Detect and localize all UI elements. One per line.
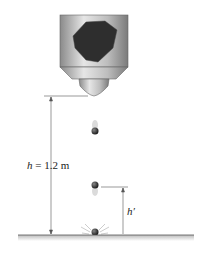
height-label: h = 1.2 m [27,159,69,171]
bouncing-ball [81,224,109,236]
diagram-canvas [0,0,209,253]
hopper [60,15,128,96]
falling-ball [92,182,99,197]
height-value: = 1.2 m [33,159,70,171]
rebound-label: h′ [127,205,135,217]
rebound-dimension [101,187,128,234]
dropping-ball [92,120,99,135]
ground [18,235,194,241]
